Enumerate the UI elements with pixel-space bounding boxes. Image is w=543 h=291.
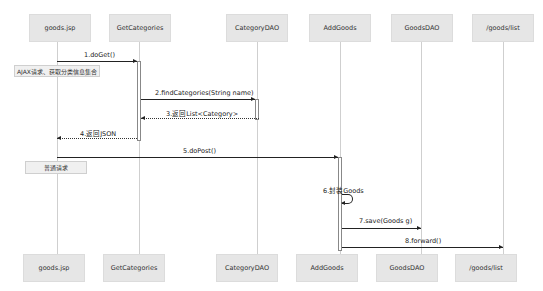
participant-categorydao-bottom: CategoryDAO bbox=[216, 254, 278, 282]
message-2-label: 2.findCategories(String name) bbox=[155, 89, 254, 97]
message-8-arrow bbox=[342, 247, 503, 248]
activation-getcategories bbox=[137, 61, 141, 141]
message-3-arrow bbox=[141, 118, 259, 119]
participant-goods-jsp-bottom: goods.jsp bbox=[23, 254, 85, 282]
message-3-label: 3.返回List<Category> bbox=[166, 108, 238, 118]
arrowhead-icon bbox=[57, 136, 61, 140]
participant-goodsdao-bottom: GoodsDAO bbox=[376, 254, 438, 282]
participant-goods-jsp-top: goods.jsp bbox=[29, 14, 91, 42]
message-5-arrow bbox=[57, 157, 338, 158]
arrowhead-icon bbox=[499, 245, 503, 249]
lifeline-goodsdao bbox=[421, 42, 422, 257]
message-7-arrow bbox=[342, 228, 421, 229]
participant-categorydao-top: CategoryDAO bbox=[226, 14, 288, 42]
arrowhead-icon bbox=[417, 226, 421, 230]
participant-getcategories-top: GetCategories bbox=[109, 14, 171, 42]
message-8-label: 8.forward() bbox=[405, 237, 441, 245]
message-4-arrow bbox=[57, 138, 137, 139]
message-7-label: 7.save(Goods g) bbox=[359, 217, 412, 225]
arrowhead-icon bbox=[341, 201, 345, 205]
activation-categorydao bbox=[255, 99, 259, 120]
participant-goodsdao-top: GoodsDAO bbox=[391, 14, 453, 42]
message-1-arrow bbox=[57, 61, 137, 62]
message-4-label: 4.返回JSON bbox=[80, 128, 116, 138]
message-1-label: 1.doGet() bbox=[84, 51, 115, 59]
participant-addgoods-top: AddGoods bbox=[309, 14, 371, 42]
participant-goods-list-bottom: /goods/list bbox=[455, 254, 517, 282]
arrowhead-icon bbox=[251, 97, 255, 101]
lifeline-categorydao bbox=[257, 42, 258, 257]
note-ajax-request: AJAX请求、获取分类信息集合 bbox=[14, 65, 100, 77]
message-2-arrow bbox=[141, 99, 255, 100]
participant-getcategories-bottom: GetCategories bbox=[103, 254, 165, 282]
arrowhead-icon bbox=[133, 59, 137, 63]
participant-goods-list-top: /goods/list bbox=[472, 14, 534, 42]
lifeline-goods-list bbox=[503, 42, 504, 257]
message-5-label: 5.doPost() bbox=[183, 147, 216, 155]
participant-addgoods-bottom: AddGoods bbox=[296, 254, 358, 282]
arrowhead-icon bbox=[141, 116, 145, 120]
note-normal-request: 普通请求 bbox=[25, 161, 87, 174]
arrowhead-icon bbox=[334, 155, 338, 159]
